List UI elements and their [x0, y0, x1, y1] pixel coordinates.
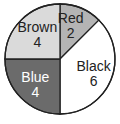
slice-value-brown: 4: [33, 34, 41, 50]
slice-value-red: 2: [67, 25, 75, 41]
slice-label-red: Red: [58, 10, 84, 26]
pie-chart: Red2Black6Blue4Brown4: [0, 0, 120, 124]
slice-label-brown: Brown: [18, 19, 58, 35]
slice-value-blue: 4: [31, 84, 39, 100]
slice-label-blue: Blue: [21, 69, 49, 85]
slice-label-black: Black: [76, 58, 111, 74]
slice-value-black: 6: [90, 73, 98, 89]
